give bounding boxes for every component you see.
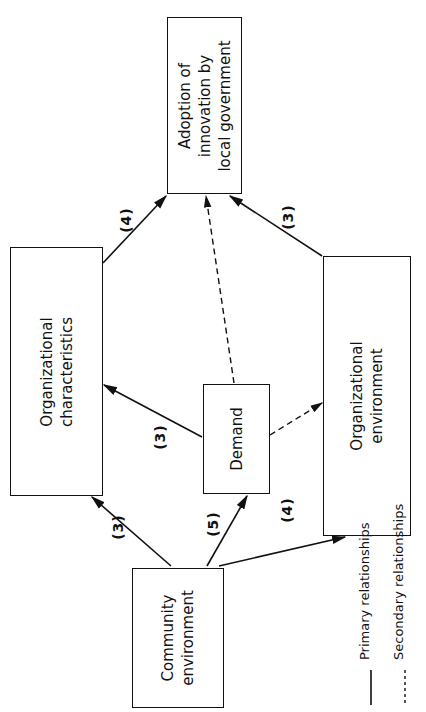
edge-orgenv-to-adoption (230, 196, 322, 256)
edge-demand-to-adoption (206, 196, 234, 383)
node-adoption-label: Adoption of innovation by local governme… (175, 40, 235, 171)
edge-label-orgenv-to-adoption: (3) (280, 204, 296, 230)
edge-community-to-orgchar (92, 497, 171, 566)
node-community-environment-label: Community environment (158, 590, 198, 686)
edge-label-community-to-orgchar: (3) (110, 514, 126, 540)
edge-label-demand-to-orgchar: (3) (152, 424, 168, 450)
node-org-environment-label: Organizational environment (347, 341, 387, 450)
edge-label-community-to-demand: (5) (205, 511, 221, 537)
edge-orgchar-to-adoption (103, 196, 166, 263)
edge-label-orgchar-to-adoption: (4) (118, 207, 134, 233)
legend-primary-label: Primary relationships (357, 522, 372, 660)
legend-secondary-label: Secondary relationships (391, 504, 406, 660)
node-demand-label: Demand (227, 407, 247, 471)
node-demand: Demand (203, 384, 270, 494)
node-org-environment: Organizational environment (323, 256, 411, 536)
node-org-characteristics: Organizational characteristics (10, 247, 103, 496)
edge-community-to-orgenv (219, 537, 345, 566)
edge-demand-to-orgenv (270, 403, 322, 435)
node-adoption: Adoption of innovation by local governme… (167, 17, 242, 194)
node-community-environment: Community environment (132, 568, 224, 708)
relationship-diagram: Adoption of innovation by local governme… (0, 0, 426, 712)
edge-label-community-to-orgenv: (4) (279, 497, 295, 523)
node-org-characteristics-label: Organizational characteristics (37, 317, 77, 427)
